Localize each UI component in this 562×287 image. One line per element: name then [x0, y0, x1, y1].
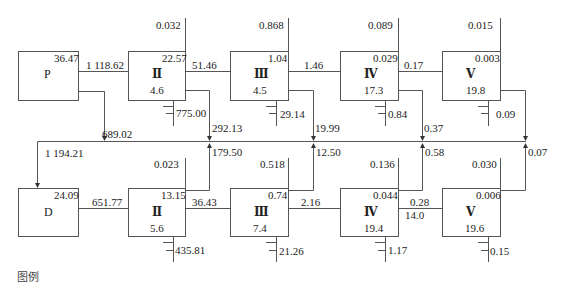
- top-ii-corner: 22.57: [162, 52, 187, 64]
- top-iv-settle: 0.84: [388, 108, 407, 120]
- top-iii-bottom: 4.5: [253, 84, 267, 96]
- top-iii-label: Ⅲ: [254, 67, 269, 81]
- bot-v-return: 0.07: [528, 146, 547, 158]
- top-iii-top-value: 0.868: [259, 19, 284, 31]
- top-v-top-value: 0.015: [468, 19, 493, 31]
- top-ii-settle: 775.00: [176, 107, 206, 119]
- link-p-ii: 1 118.62: [86, 59, 124, 71]
- legend-label: 图例: [17, 268, 39, 284]
- link-iii-iv: 1.46: [304, 59, 323, 71]
- top-iii-return: 19.99: [315, 122, 340, 134]
- link-bot-ii-iii: 36.43: [192, 196, 217, 208]
- link-iv-v: 0.17: [404, 59, 423, 71]
- bot-iv-label: Ⅳ: [364, 205, 378, 219]
- d-inflow-value: 1 194.21: [45, 147, 84, 159]
- bot-v-bottom: 19.6: [465, 222, 484, 234]
- bot-iii-corner: 0.74: [268, 189, 287, 201]
- bot-ii-return: 179.50: [212, 146, 242, 158]
- link-bot-iv-v: 0.28: [410, 196, 429, 208]
- link-ii-iii: 51.46: [192, 59, 217, 71]
- link-bot-iv-v-sub: 14.0: [405, 209, 424, 221]
- top-iv-top-value: 0.089: [368, 19, 393, 31]
- top-ii-top-value: 0.032: [156, 19, 181, 31]
- bot-iv-corner: 0.044: [373, 189, 398, 201]
- box-p-label: P: [44, 67, 51, 81]
- top-iii-settle: 29.14: [280, 108, 305, 120]
- bot-ii-top-value: 0.023: [154, 158, 179, 170]
- top-v-settle: 0.09: [496, 108, 515, 120]
- bot-iii-bottom: 7.4: [253, 222, 267, 234]
- bot-iv-top-value: 0.136: [370, 158, 395, 170]
- top-v-label: Ⅴ: [466, 67, 475, 81]
- top-ii-return: 292.13: [212, 122, 242, 134]
- bot-iii-label: Ⅲ: [254, 205, 269, 219]
- top-v-corner: 0.003: [475, 52, 500, 64]
- flow-lines: [0, 0, 562, 287]
- box-d-label: D: [44, 205, 53, 219]
- bot-v-settle: 0.15: [490, 245, 509, 257]
- bot-v-top-value: 0.030: [472, 158, 497, 170]
- bot-v-corner: 0.006: [476, 189, 501, 201]
- bot-ii-corner: 13.15: [161, 189, 186, 201]
- top-ii-label: Ⅱ: [152, 67, 162, 81]
- p-corner-value: 36.47: [54, 52, 79, 64]
- bot-ii-settle: 435.81: [175, 244, 205, 256]
- top-v-bottom: 19.8: [466, 84, 485, 96]
- d-corner-value: 24.09: [54, 189, 79, 201]
- bot-iv-return: 0.58: [425, 146, 444, 158]
- top-iv-return: 0.37: [424, 122, 443, 134]
- link-d-ii: 651.77: [92, 196, 122, 208]
- top-iv-label: Ⅳ: [364, 67, 378, 81]
- bot-v-label: Ⅴ: [466, 205, 475, 219]
- bot-ii-label: Ⅱ: [152, 205, 162, 219]
- top-iv-corner: 0.029: [373, 52, 398, 64]
- top-iii-corner: 1.04: [268, 52, 287, 64]
- top-ii-bottom: 4.6: [150, 84, 164, 96]
- bot-iv-bottom: 19.4: [364, 222, 383, 234]
- link-bot-iii-iv: 2.16: [301, 196, 320, 208]
- bot-ii-bottom: 5.6: [150, 222, 164, 234]
- p-branch-value: 689.02: [102, 128, 132, 140]
- bot-iii-return: 12.50: [316, 146, 341, 158]
- bot-iii-top-value: 0.518: [260, 158, 285, 170]
- top-iv-bottom: 17.3: [364, 84, 383, 96]
- bot-iv-settle: 1.17: [388, 244, 407, 256]
- bot-iii-settle: 21.26: [279, 245, 304, 257]
